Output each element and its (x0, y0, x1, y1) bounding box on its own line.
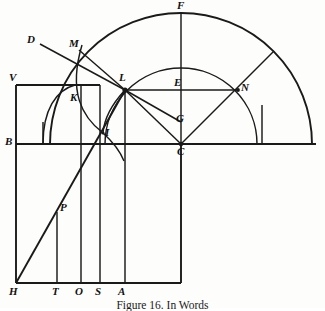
point-label-P: P (60, 202, 67, 213)
ray-l-m-segment (79, 50, 125, 90)
point-dot-L (122, 87, 127, 92)
point-dot-N (236, 88, 240, 92)
point-label-F: F (177, 0, 184, 11)
point-label-D: D (27, 34, 35, 45)
point-label-M: M (69, 38, 79, 49)
diagonal-h-l-segment (16, 90, 125, 283)
point-label-V: V (9, 72, 16, 83)
point-label-A: A (118, 286, 125, 297)
figure-caption: Figure 16. In Words (0, 299, 325, 311)
point-label-L: L (119, 72, 126, 83)
point-label-I: I (105, 127, 109, 138)
ray-l-d-segment (40, 44, 125, 90)
radius-c-outer-ne-segment (181, 51, 274, 144)
point-label-G: G (176, 113, 184, 124)
point-label-S: S (95, 286, 101, 297)
point-label-T: T (52, 286, 59, 297)
point-label-B: B (5, 136, 12, 147)
point-label-N: N (241, 82, 249, 93)
point-label-C: C (177, 146, 184, 157)
point-label-H: H (9, 286, 18, 297)
point-label-E: E (174, 77, 181, 88)
point-label-O: O (75, 286, 83, 297)
point-label-K: K (70, 92, 77, 103)
